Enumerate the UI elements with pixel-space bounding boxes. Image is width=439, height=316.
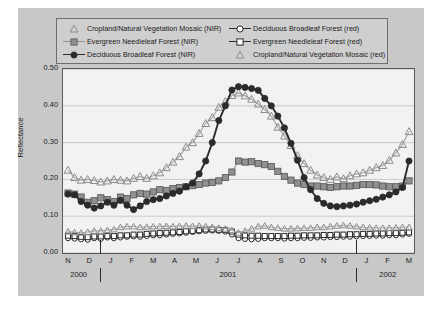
data-point [216, 178, 222, 184]
y-tick-label: 0.00 [28, 248, 58, 256]
data-point [288, 177, 294, 183]
x-tick-label: M [146, 256, 160, 266]
legend-entry: Cropland/Natural Vegetation Mosaic (red) [229, 48, 387, 61]
circle-open-marker-icon [229, 23, 251, 34]
data-point [190, 228, 195, 233]
legend-label: Evergreen Needleleaf Forest (NIR) [87, 35, 198, 48]
data-point [367, 231, 372, 236]
x-tick-label: M [189, 256, 203, 266]
data-point [92, 234, 97, 239]
data-point [361, 231, 366, 236]
data-point [151, 231, 156, 236]
data-point [98, 195, 104, 201]
x-tick-label: A [168, 256, 182, 266]
data-point [387, 231, 392, 236]
x-tick-label: J [232, 256, 246, 266]
data-point [374, 231, 379, 236]
data-point [85, 202, 91, 208]
data-point [170, 190, 176, 196]
year-separator [356, 268, 357, 282]
data-point [203, 180, 209, 186]
data-point [71, 192, 77, 198]
data-point [360, 199, 366, 205]
data-point [360, 181, 366, 187]
data-point [203, 158, 209, 164]
data-point [65, 191, 71, 197]
x-tick-label: N [61, 256, 75, 266]
legend-label: Cropland/Natural Vegetation Mosaic (red) [253, 48, 385, 61]
data-point [249, 159, 255, 165]
data-point [407, 230, 412, 235]
data-point [131, 232, 136, 237]
series-5 [65, 222, 412, 235]
data-point [242, 84, 248, 90]
data-point [183, 184, 189, 190]
y-tick-label: 0.50 [28, 64, 58, 72]
data-point [130, 192, 136, 198]
data-point [137, 203, 143, 209]
legend-entry: Deciduous Broadleaf Forest (NIR) [63, 48, 229, 61]
data-point [249, 233, 254, 238]
data-point [321, 200, 327, 206]
chart-screenshot: Cropland/Natural Vegetation Mosaic (NIR)… [0, 0, 439, 316]
data-point [334, 204, 340, 210]
series-line [68, 87, 409, 210]
data-point [209, 179, 215, 185]
data-point [255, 87, 261, 93]
data-point [157, 187, 163, 193]
triangle-open-marker-icon [63, 23, 85, 34]
data-point [353, 201, 359, 207]
data-point [400, 230, 405, 235]
data-point [294, 157, 300, 163]
data-point [176, 188, 182, 194]
data-point [386, 192, 392, 198]
x-tick-label: F [381, 256, 395, 266]
data-point [380, 231, 385, 236]
data-point [64, 166, 72, 173]
data-point [262, 95, 268, 101]
data-point [275, 234, 280, 239]
data-point [353, 182, 359, 188]
data-point [235, 84, 241, 90]
x-year-label: 2002 [368, 270, 408, 280]
data-point [281, 173, 287, 179]
data-point [138, 232, 143, 237]
y-tick-label: 0.30 [28, 138, 58, 146]
x-tick-label: D [338, 256, 352, 266]
y-axis-tick-labels: 0.500.400.300.200.100.00 [26, 68, 58, 252]
data-point [275, 168, 281, 174]
data-point [137, 190, 143, 196]
data-point [235, 158, 241, 164]
data-point [294, 180, 300, 186]
y-axis-title: Reflectance [16, 93, 25, 183]
data-point [314, 195, 320, 201]
x-tick-label: M [402, 256, 416, 266]
data-point [341, 232, 346, 237]
chart-legend: Cropland/Natural Vegetation Mosaic (NIR)… [56, 18, 388, 64]
x-tick-label: N [317, 256, 331, 266]
data-point [111, 202, 117, 208]
data-point [340, 203, 346, 209]
legend-label: Cropland/Natural Vegetation Mosaic (NIR) [87, 22, 221, 35]
data-point [367, 181, 373, 187]
data-point [130, 206, 136, 212]
data-point [98, 234, 103, 239]
x-tick-label: J [359, 256, 373, 266]
data-point [321, 184, 327, 190]
data-point [295, 233, 300, 238]
data-point [150, 197, 156, 203]
data-point [222, 103, 228, 109]
y-tick-label: 0.20 [28, 174, 58, 182]
series-line [68, 93, 409, 182]
data-point [393, 231, 398, 236]
data-point [125, 233, 130, 238]
square-filled-marker-icon [63, 36, 85, 47]
data-point [347, 202, 353, 208]
data-point [268, 163, 274, 169]
data-point [340, 183, 346, 189]
x-tick-label: J [104, 256, 118, 266]
data-point [209, 140, 215, 146]
data-point [314, 183, 320, 189]
data-point [393, 189, 399, 195]
data-point [288, 233, 293, 238]
